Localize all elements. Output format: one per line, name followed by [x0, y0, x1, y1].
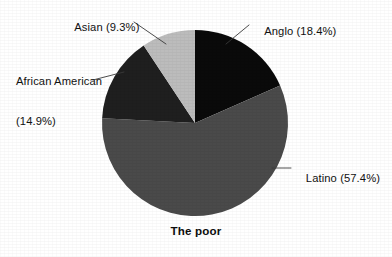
chart-caption-text: The poor	[170, 224, 221, 237]
pie-label-asian: Asian (9.3%)	[62, 8, 139, 48]
chart-caption: The poor	[0, 224, 392, 237]
pie-chart-figure: Asian (9.3%) Anglo (18.4%) African Ameri…	[0, 0, 392, 257]
pie-label-african-american: African American (14.9%)	[16, 48, 102, 155]
pie-label-asian-text: Asian (9.3%)	[74, 21, 139, 33]
pie-label-african-american-percent: (14.9%)	[16, 115, 102, 128]
pie-label-anglo: Anglo (18.4%)	[252, 12, 336, 52]
pie-slices	[102, 30, 288, 216]
pie-label-anglo-text: Anglo (18.4%)	[264, 25, 336, 37]
pie-label-latino-text: Latino (57.4%)	[306, 172, 380, 184]
pie-label-african-american-text: African American	[16, 75, 102, 88]
pie-label-latino: Latino (57.4%)	[293, 159, 380, 199]
